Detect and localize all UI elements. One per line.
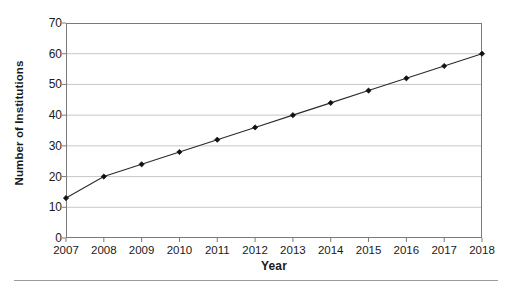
plot-background — [66, 23, 482, 238]
chart-figure: Number of Institutions 010203040506070 2… — [0, 0, 512, 297]
footer-divider — [14, 280, 498, 281]
x-axis-title: Year — [66, 259, 482, 273]
x-tick-label: 2018 — [454, 243, 510, 257]
